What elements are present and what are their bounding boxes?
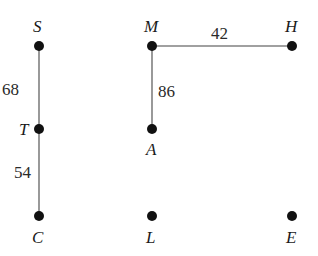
node-label-s: S bbox=[33, 17, 42, 36]
node-a bbox=[147, 124, 157, 134]
node-s bbox=[34, 41, 44, 51]
node-t bbox=[34, 124, 44, 134]
edge-weight-t-c: 54 bbox=[14, 163, 32, 182]
node-l bbox=[147, 211, 157, 221]
node-h bbox=[287, 41, 297, 51]
node-label-m: M bbox=[143, 17, 159, 36]
node-e bbox=[287, 211, 297, 221]
edge-weight-m-a: 86 bbox=[158, 82, 175, 101]
node-c bbox=[34, 211, 44, 221]
node-m bbox=[147, 41, 157, 51]
edge-weight-s-t: 68 bbox=[2, 80, 19, 99]
node-label-h: H bbox=[284, 17, 299, 36]
node-label-c: C bbox=[32, 228, 44, 247]
node-label-t: T bbox=[19, 120, 30, 139]
edge-weight-m-h: 42 bbox=[211, 24, 228, 43]
graph-diagram: 68 54 86 42 S T C M A L H E bbox=[0, 0, 318, 256]
node-label-e: E bbox=[285, 228, 297, 247]
node-label-l: L bbox=[145, 228, 155, 247]
node-label-a: A bbox=[145, 140, 157, 159]
